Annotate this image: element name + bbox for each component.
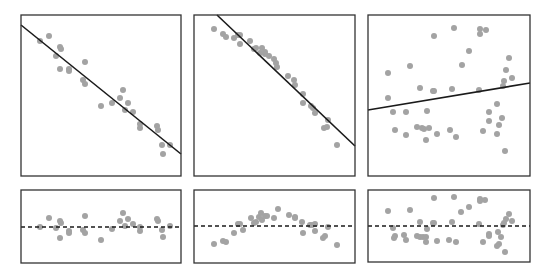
data-point — [231, 230, 237, 236]
panels-group — [21, 15, 530, 263]
data-point — [403, 109, 409, 115]
data-point — [240, 227, 246, 233]
data-point — [286, 212, 292, 218]
data-point — [390, 109, 396, 115]
data-point — [46, 33, 52, 39]
data-point — [431, 220, 437, 226]
data-point — [82, 213, 88, 219]
data-point — [506, 55, 512, 61]
data-point — [66, 230, 72, 236]
data-point — [424, 226, 430, 232]
data-point — [312, 228, 318, 234]
data-point — [449, 219, 455, 225]
data-point — [125, 100, 131, 106]
data-point — [117, 95, 123, 101]
data-point — [264, 213, 270, 219]
data-point — [502, 148, 508, 154]
data-point — [325, 224, 331, 230]
data-point — [334, 142, 340, 148]
data-point — [125, 216, 131, 222]
data-point — [322, 233, 328, 239]
scatter-panel-middle — [194, 15, 355, 176]
data-point — [58, 220, 64, 226]
data-point — [160, 234, 166, 240]
regression-line — [368, 83, 530, 110]
data-point — [466, 48, 472, 54]
data-point — [98, 103, 104, 109]
data-point — [160, 151, 166, 157]
panel-frame — [21, 15, 181, 176]
data-point — [424, 108, 430, 114]
data-point — [499, 115, 505, 121]
data-point — [496, 122, 502, 128]
data-point — [223, 239, 229, 245]
regression-line — [217, 15, 355, 146]
data-point — [392, 127, 398, 133]
data-point — [506, 211, 512, 217]
scatter-and-residual-panels — [0, 0, 551, 279]
data-point — [385, 70, 391, 76]
data-point — [423, 137, 429, 143]
data-point — [120, 210, 126, 216]
data-point — [271, 215, 277, 221]
data-point — [167, 223, 173, 229]
data-point — [82, 230, 88, 236]
data-point — [334, 242, 340, 248]
data-point — [57, 66, 63, 72]
data-point — [486, 118, 492, 124]
data-point — [447, 127, 453, 133]
data-point — [299, 219, 305, 225]
scatter-panel-right — [368, 15, 530, 176]
data-point — [494, 243, 500, 249]
data-point — [385, 208, 391, 214]
data-point — [391, 235, 397, 241]
data-point — [477, 31, 483, 37]
data-point — [480, 128, 486, 134]
data-point — [502, 249, 508, 255]
data-point — [253, 219, 259, 225]
data-point — [509, 75, 515, 81]
data-point — [501, 78, 507, 84]
data-point — [211, 26, 217, 32]
data-point — [417, 219, 423, 225]
data-point — [426, 125, 432, 131]
data-point — [486, 233, 492, 239]
data-point — [130, 221, 136, 227]
residual-panel-left — [21, 190, 181, 263]
data-point — [431, 88, 437, 94]
data-point — [434, 238, 440, 244]
data-point — [82, 59, 88, 65]
data-point — [275, 206, 281, 212]
data-point — [155, 218, 161, 224]
data-point — [159, 227, 165, 233]
data-point — [120, 87, 126, 93]
data-point — [385, 95, 391, 101]
data-point — [285, 73, 291, 79]
data-point — [82, 81, 88, 87]
data-point — [495, 229, 501, 235]
data-point — [248, 215, 254, 221]
residual-plot-grid — [0, 0, 551, 279]
data-point — [155, 127, 161, 133]
data-point — [494, 131, 500, 137]
data-point — [494, 101, 500, 107]
data-point — [266, 53, 272, 59]
data-point — [431, 195, 437, 201]
data-point — [159, 142, 165, 148]
data-point — [453, 134, 459, 140]
data-point — [500, 222, 506, 228]
data-point — [273, 60, 279, 66]
data-point — [451, 194, 457, 200]
data-point — [431, 33, 437, 39]
data-point — [98, 237, 104, 243]
data-point — [46, 215, 52, 221]
data-point — [498, 234, 504, 240]
data-point — [137, 125, 143, 131]
data-point — [459, 62, 465, 68]
data-point — [223, 34, 229, 40]
data-point — [237, 41, 243, 47]
data-point — [451, 25, 457, 31]
data-point — [414, 124, 420, 130]
data-point — [407, 207, 413, 213]
data-point — [300, 100, 306, 106]
